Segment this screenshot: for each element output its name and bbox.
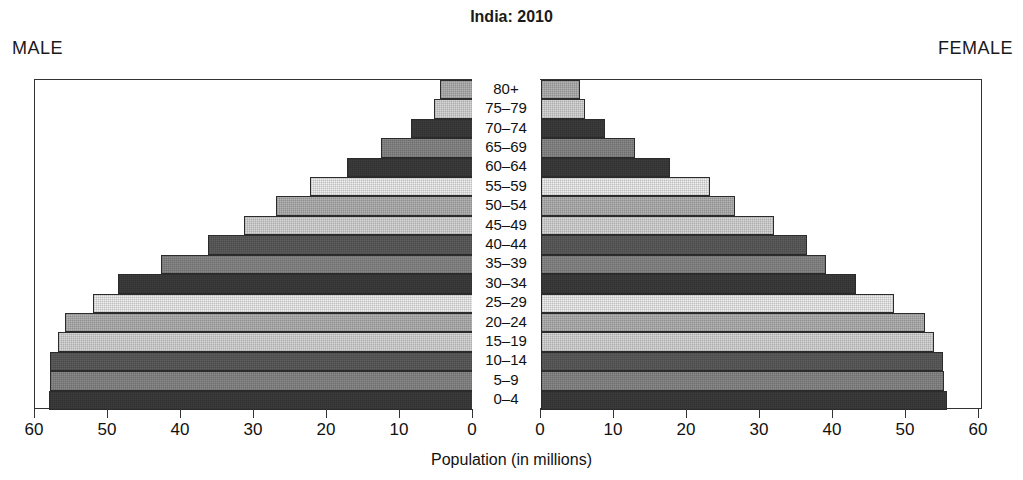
- female-bar: [541, 332, 934, 351]
- female-bar: [541, 99, 585, 118]
- male-bar: [49, 391, 473, 410]
- male-bar: [93, 294, 473, 313]
- axis-tick: [253, 409, 254, 418]
- axis-tick: [540, 409, 541, 418]
- x-tick-label-female-60: 60: [969, 420, 988, 440]
- female-bar: [541, 119, 605, 138]
- male-bar: [276, 196, 473, 215]
- x-tick-label-male-10: 10: [390, 420, 409, 440]
- male-bar: [58, 332, 473, 351]
- page-title: India: 2010: [0, 8, 1023, 26]
- female-bar: [541, 313, 925, 332]
- male-bar: [50, 352, 473, 371]
- age-group-label: 30–34: [472, 275, 540, 290]
- age-group-label: 45–49: [472, 217, 540, 232]
- x-tick-label-female-10: 10: [604, 420, 623, 440]
- male-bar: [50, 371, 473, 390]
- age-group-label: 70–74: [472, 120, 540, 135]
- axis-tick: [34, 409, 35, 418]
- male-bar: [118, 274, 473, 293]
- female-bar: [541, 80, 580, 99]
- age-group-label: 35–39: [472, 255, 540, 270]
- age-group-label: 80+: [472, 81, 540, 96]
- age-group-label: 60–64: [472, 158, 540, 173]
- female-side-label: FEMALE: [938, 38, 1013, 59]
- axis-tick: [613, 409, 614, 418]
- axis-tick: [107, 409, 108, 418]
- x-tick-label-female-0: 0: [535, 420, 544, 440]
- male-bar: [65, 313, 473, 332]
- x-tick-label-male-50: 50: [98, 420, 117, 440]
- axis-tick: [399, 409, 400, 418]
- female-bar: [541, 196, 735, 215]
- male-side-label: MALE: [12, 38, 63, 59]
- axis-tick: [978, 409, 979, 418]
- age-group-label: 75–79: [472, 100, 540, 115]
- x-tick-label-male-40: 40: [171, 420, 190, 440]
- female-bar: [541, 274, 856, 293]
- female-bar: [541, 352, 943, 371]
- x-tick-label-male-0: 0: [467, 420, 476, 440]
- female-bar: [541, 255, 826, 274]
- age-group-label: 50–54: [472, 197, 540, 212]
- male-bar: [161, 255, 473, 274]
- age-group-label: 20–24: [472, 314, 540, 329]
- age-group-label: 65–69: [472, 139, 540, 154]
- age-group-label: 10–14: [472, 352, 540, 367]
- female-bar: [541, 235, 807, 254]
- age-group-label: 15–19: [472, 333, 540, 348]
- male-bar: [440, 80, 473, 99]
- x-tick-label-female-40: 40: [823, 420, 842, 440]
- female-bar: [541, 138, 635, 157]
- female-bar: [541, 216, 774, 235]
- male-bar: [244, 216, 473, 235]
- female-bar: [541, 391, 947, 410]
- female-bar: [541, 371, 944, 390]
- x-axis: Population (in millions) 605040302010001…: [0, 409, 1023, 480]
- x-axis-caption: Population (in millions): [0, 451, 1023, 469]
- female-bar: [541, 294, 894, 313]
- female-bar: [541, 158, 670, 177]
- axis-tick: [686, 409, 687, 418]
- age-group-label: 55–59: [472, 178, 540, 193]
- axis-tick: [180, 409, 181, 418]
- x-tick-label-male-30: 30: [244, 420, 263, 440]
- age-group-label: 0–4: [472, 391, 540, 406]
- x-tick-label-female-30: 30: [750, 420, 769, 440]
- age-group-label: 40–44: [472, 236, 540, 251]
- population-pyramid-figure: India: 2010 MALE FEMALE 80+75–7970–7465–…: [0, 0, 1023, 480]
- male-bar: [381, 138, 473, 157]
- age-group-label: 25–29: [472, 294, 540, 309]
- age-group-axis: 80+75–7970–7465–6960–6455–5950–5445–4940…: [472, 79, 540, 409]
- male-bar: [310, 177, 473, 196]
- female-bar: [541, 177, 710, 196]
- axis-tick: [832, 409, 833, 418]
- male-bar: [347, 158, 473, 177]
- male-bar: [411, 119, 473, 138]
- x-tick-label-male-20: 20: [317, 420, 336, 440]
- axis-tick: [905, 409, 906, 418]
- male-bar: [434, 99, 473, 118]
- axis-tick: [472, 409, 473, 418]
- axis-tick: [759, 409, 760, 418]
- male-bar: [208, 235, 473, 254]
- x-tick-label-female-50: 50: [896, 420, 915, 440]
- x-tick-label-male-60: 60: [25, 420, 44, 440]
- x-tick-label-female-20: 20: [677, 420, 696, 440]
- axis-tick: [326, 409, 327, 418]
- age-group-label: 5–9: [472, 372, 540, 387]
